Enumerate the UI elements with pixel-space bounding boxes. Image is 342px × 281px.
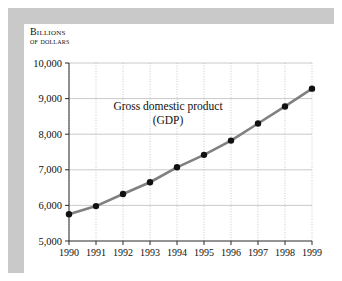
svg-text:Gross domestic product: Gross domestic product — [113, 100, 223, 113]
horizontal-gridlines — [69, 63, 312, 205]
svg-text:1995: 1995 — [194, 247, 214, 258]
svg-text:6,000: 6,000 — [38, 200, 62, 211]
svg-text:1999: 1999 — [302, 247, 322, 258]
svg-text:1996: 1996 — [221, 247, 241, 258]
line-chart: 5,0006,0007,0008,0009,00010,000 19901991… — [0, 0, 342, 281]
svg-text:(GDP): (GDP) — [153, 114, 184, 127]
svg-text:1990: 1990 — [59, 247, 79, 258]
svg-text:9,000: 9,000 — [38, 93, 62, 104]
axis-lines — [69, 63, 312, 241]
svg-text:1994: 1994 — [167, 247, 187, 258]
svg-text:1998: 1998 — [275, 247, 295, 258]
svg-text:7,000: 7,000 — [38, 164, 62, 175]
x-axis-ticks — [69, 241, 312, 245]
figure-page: Billions of dollars 5,0006,0007,0008,000… — [0, 0, 342, 281]
x-axis-tick-labels: 1990199119921993199419951996199719981999 — [59, 247, 322, 258]
chart-plot-area: 5,0006,0007,0008,0009,00010,000 19901991… — [0, 0, 342, 281]
vertical-gridlines — [69, 63, 312, 241]
y-axis-tick-labels: 5,0006,0007,0008,0009,00010,000 — [33, 58, 62, 247]
svg-text:8,000: 8,000 — [38, 129, 62, 140]
svg-text:1993: 1993 — [140, 247, 160, 258]
svg-text:1991: 1991 — [86, 247, 106, 258]
svg-text:5,000: 5,000 — [38, 236, 62, 247]
svg-text:10,000: 10,000 — [33, 58, 62, 69]
svg-text:1997: 1997 — [248, 247, 268, 258]
svg-text:1992: 1992 — [113, 247, 133, 258]
series-annotation: Gross domestic product(GDP) — [113, 100, 223, 127]
